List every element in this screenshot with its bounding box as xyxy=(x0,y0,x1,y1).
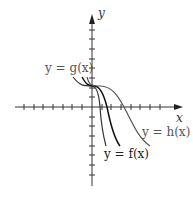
label-f: y = f(x) xyxy=(103,147,149,161)
label-h: y = h(x) xyxy=(141,125,190,139)
function-graph: x y y = g(x) y = f(x) y = h(x) xyxy=(0,0,193,197)
y-axis-label: y xyxy=(97,6,105,20)
curve-f xyxy=(82,77,120,146)
label-g: y = g(x) xyxy=(44,61,93,75)
x-axis-label: x xyxy=(176,111,183,125)
x-axis xyxy=(15,104,183,110)
y-axis-arrow-icon xyxy=(89,14,95,24)
x-axis-arrow-icon xyxy=(174,104,183,110)
y-axis xyxy=(89,14,95,186)
